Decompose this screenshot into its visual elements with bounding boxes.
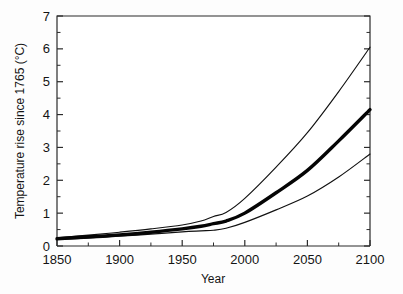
- plot-area-background: [57, 16, 370, 246]
- y-tick-label: 4: [43, 107, 50, 122]
- y-axis-title: Temperature rise since 1765 (°C): [13, 43, 27, 219]
- x-tick-label: 1950: [168, 252, 197, 267]
- x-tick-label: 1900: [105, 252, 134, 267]
- y-tick-label: 1: [43, 206, 50, 221]
- figure-container: 185019001950200020502100 01234567 Year T…: [0, 0, 403, 294]
- x-tick-label: 2100: [356, 252, 385, 267]
- temperature-rise-line-chart: 185019001950200020502100 01234567 Year T…: [0, 0, 403, 294]
- y-tick-label: 2: [43, 173, 50, 188]
- x-axis-title: Year: [201, 272, 225, 286]
- y-tick-label: 5: [43, 74, 50, 89]
- y-tick-label: 6: [43, 41, 50, 56]
- x-tick-label: 2050: [293, 252, 322, 267]
- y-tick-label: 0: [43, 239, 50, 254]
- y-tick-label: 3: [43, 140, 50, 155]
- x-tick-label: 1850: [43, 252, 72, 267]
- y-tick-label: 7: [43, 9, 50, 24]
- x-tick-label: 2000: [230, 252, 259, 267]
